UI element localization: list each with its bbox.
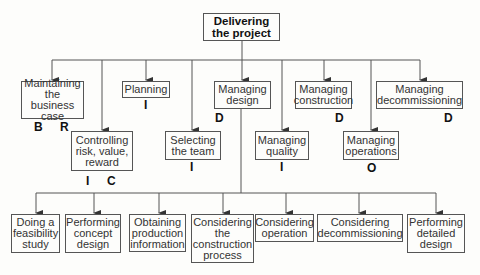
- tag-b: B: [34, 120, 43, 134]
- node-managing-quality: Managing quality: [255, 131, 309, 160]
- node-managing-design: Managing design: [214, 81, 271, 109]
- node-selecting-the-team: Selecting the team: [165, 131, 221, 160]
- tag-d: D: [215, 111, 224, 125]
- node-performing-detailed-design: Performing detailed design: [407, 214, 465, 253]
- tag-r: R: [60, 120, 69, 134]
- node-considering-construction-process: Considering the construction process: [191, 214, 254, 263]
- node-controlling-risk-value-reward: Controlling risk, value, reward: [71, 131, 133, 171]
- node-delivering-the-project: Delivering the project: [203, 13, 280, 41]
- node-doing-feasibility-study: Doing a feasibility study: [11, 214, 60, 253]
- node-performing-concept-design: Performing concept design: [65, 214, 121, 253]
- node-maintaining-business-case: Maintaining the business case: [21, 81, 84, 119]
- tag-d: D: [335, 111, 344, 125]
- tag-i: I: [86, 174, 89, 188]
- tag-c: C: [107, 174, 116, 188]
- tag-i: I: [280, 160, 283, 174]
- node-managing-decommissioning: Managing decommissioning: [376, 81, 463, 109]
- tag-d: D: [444, 111, 453, 125]
- tag-i: I: [190, 160, 193, 174]
- tag-i: I: [144, 98, 147, 112]
- node-managing-operations: Managing operations: [343, 131, 399, 160]
- node-managing-construction: Managing construction: [295, 81, 352, 109]
- node-considering-operation: Considering operation: [255, 214, 314, 242]
- node-considering-decommissioning: Considering decommissioning: [317, 214, 403, 242]
- node-obtaining-production-information: Obtaining production information: [129, 214, 186, 252]
- tag-o: O: [367, 161, 376, 175]
- node-planning: Planning: [122, 81, 170, 98]
